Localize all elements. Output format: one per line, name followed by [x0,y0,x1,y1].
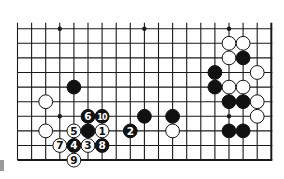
move-number: 7 [56,139,63,151]
star-point [227,114,231,118]
move-number: 6 [84,110,91,122]
star-point [142,27,146,31]
black-stone [67,80,81,94]
white-stone [39,95,53,109]
move-number: 9 [70,154,77,166]
white-stone-move-9: 9 [67,153,81,167]
black-stone-move-10: 10 [95,109,109,123]
white-stone-move-5: 5 [67,124,81,138]
black-stone-move-2: 2 [123,124,137,138]
white-stone [250,95,264,109]
black-stone [81,124,95,138]
white-stone-move-1: 1 [95,124,109,138]
move-number: 3 [84,139,91,151]
black-stone [208,66,222,80]
white-stone [250,109,264,123]
white-stone-move-7: 7 [53,139,67,153]
black-stone [208,80,222,94]
star-point [227,27,231,31]
move-number: 5 [70,125,77,137]
white-stone [250,66,264,80]
white-stone [222,51,236,65]
black-stone [138,109,152,123]
move-number: 10 [97,113,108,122]
black-stone [236,95,250,109]
black-stone-move-4: 4 [67,139,81,153]
move-number: 8 [98,139,105,151]
move-number: 4 [70,139,77,151]
black-stone [236,124,250,138]
star-point [58,114,62,118]
black-stone [222,124,236,138]
white-stone [236,80,250,94]
black-stone-move-6: 6 [81,109,95,123]
black-stone [166,109,180,123]
black-stone [222,95,236,109]
move-number: 1 [98,125,105,137]
white-stone [222,36,236,50]
white-stone [236,36,250,50]
white-stone [222,80,236,94]
scan-artifact-mark [0,160,4,171]
white-stone [39,124,53,138]
white-stone-move-3: 3 [81,139,95,153]
star-point [58,27,62,31]
white-stone [166,124,180,138]
black-stone-move-8: 8 [95,139,109,153]
black-stone [236,51,250,65]
go-board-diagram: 12345678910 [0,0,284,179]
move-number: 2 [127,125,134,137]
